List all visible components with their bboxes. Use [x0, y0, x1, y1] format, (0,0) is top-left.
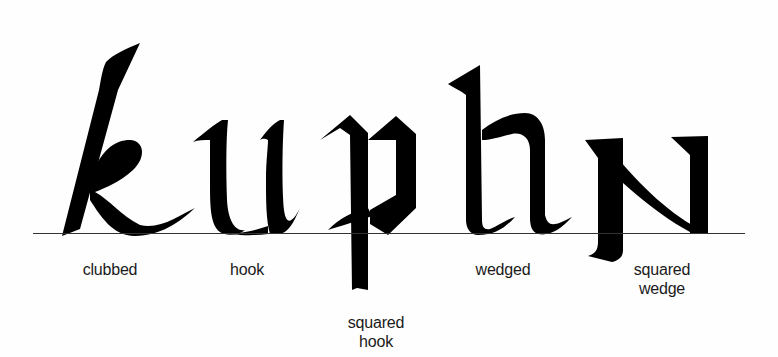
label-squared-hook-line2: hook	[336, 332, 416, 351]
label-hook: hook	[222, 260, 272, 279]
label-squared-wedge-line2: wedge	[622, 279, 702, 298]
terminal-styles-diagram: clubbed hook squared hook wedged squared…	[0, 0, 778, 357]
label-squared-wedge: squared wedge	[622, 260, 702, 298]
label-wedged: wedged	[465, 260, 541, 279]
baseline-rule	[33, 233, 745, 234]
letter-p-squared-hook	[320, 115, 416, 290]
label-squared-hook: squared hook	[336, 313, 416, 351]
label-squared-wedge-line1: squared	[622, 260, 702, 279]
letter-u-hook	[193, 120, 300, 235]
letter-k-clubbed	[62, 43, 195, 236]
label-squared-hook-line1: squared	[336, 313, 416, 332]
letter-h-wedged	[448, 65, 572, 235]
letter-n-squared-wedge	[585, 136, 708, 262]
label-clubbed: clubbed	[74, 260, 146, 279]
letterforms	[0, 0, 778, 357]
